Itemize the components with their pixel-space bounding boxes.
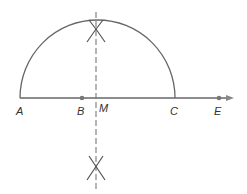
- label-c: C: [170, 105, 178, 117]
- construction-diagram: A B M C E: [0, 0, 247, 194]
- point-e-dot: [217, 96, 222, 101]
- label-m: M: [99, 102, 109, 114]
- label-a: A: [15, 105, 23, 117]
- point-b-dot: [80, 96, 85, 101]
- arrow-head-icon: [226, 95, 234, 101]
- label-b: B: [77, 105, 84, 117]
- label-e: E: [214, 105, 222, 117]
